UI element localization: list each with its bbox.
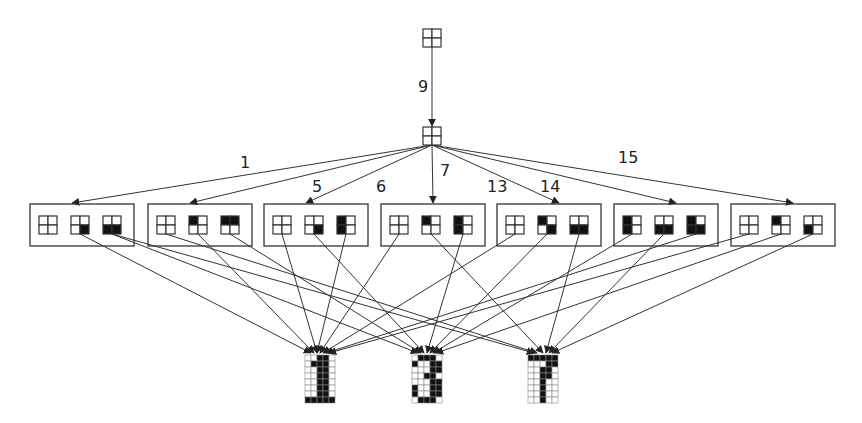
digit-1: [305, 355, 335, 403]
pattern-cell: [804, 216, 822, 234]
edge-label: 5: [312, 177, 322, 196]
pattern-cell: [772, 216, 790, 234]
pattern-cell: [687, 216, 705, 234]
edge-label: 9: [418, 77, 428, 96]
pattern-cell: [538, 216, 556, 234]
edge-label: 1: [240, 153, 250, 172]
pattern-cell: [570, 216, 588, 234]
pattern-cell: [506, 216, 524, 234]
pattern-cell: [623, 216, 641, 234]
pattern-cell: [103, 216, 121, 234]
pattern-cell: [157, 216, 175, 234]
edge-label: 15: [618, 148, 638, 167]
edge-label: 6: [376, 177, 386, 196]
edge-label: 14: [540, 177, 560, 196]
edge-label: 7: [440, 161, 450, 180]
pattern-cell: [390, 216, 408, 234]
digit-7: [528, 355, 558, 403]
pattern-cell: [221, 216, 239, 234]
pattern-cell: [740, 216, 758, 234]
pattern-hierarchy-diagram: 91567131415: [0, 0, 862, 423]
edge-label: 13: [487, 177, 507, 196]
root-pattern: [423, 29, 441, 47]
pattern-cell: [39, 216, 57, 234]
pattern-cell: [422, 216, 440, 234]
edges: [72, 47, 813, 353]
digit-3: [412, 355, 442, 403]
pattern-cell: [454, 216, 472, 234]
pattern-cell: [189, 216, 207, 234]
pattern-cell: [273, 216, 291, 234]
pattern-cell: [71, 216, 89, 234]
pattern-cell: [655, 216, 673, 234]
hub-pattern: [423, 127, 441, 145]
pattern-cell: [305, 216, 323, 234]
pattern-cell: [337, 216, 355, 234]
